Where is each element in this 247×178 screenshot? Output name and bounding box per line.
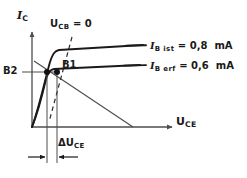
label-b1: B1: [62, 60, 77, 70]
legend-entry-ib-erf: IB erf = 0,6 mA: [150, 61, 234, 73]
legend-erf-unit: mA: [216, 60, 234, 71]
marker-b1: [54, 69, 60, 75]
delta-symbol: Δ: [58, 137, 66, 148]
legend-erf-equals: =: [176, 60, 191, 71]
label-b2: B2: [3, 66, 18, 76]
legend-ist-sub: B ist: [155, 45, 175, 53]
y-axis-label: IC: [17, 10, 28, 23]
curve-ib-ist: [32, 45, 143, 127]
delta-uce-label: ΔUCE: [58, 138, 85, 150]
x-axis-label-symbol: U: [176, 115, 185, 128]
x-axis-label: UCE: [176, 116, 197, 129]
legend-entry-ib-ist: IB ist = 0,8 mA: [150, 41, 233, 53]
characteristic-curve-svg: [0, 0, 247, 178]
ucb-zero-label: UCB = 0: [50, 19, 92, 31]
ucb-zero-sub: CB: [58, 23, 69, 31]
y-axis-label-sub: C: [22, 14, 28, 23]
delta-uce-main: U: [66, 137, 74, 148]
legend-ist-value: 0,8: [190, 40, 208, 51]
ucb-zero-equals: = 0: [69, 18, 91, 29]
legend-ist-unit: mA: [214, 40, 232, 51]
marker-b2: [44, 69, 50, 75]
legend-leader-erf: [124, 65, 146, 66]
legend-erf-sub: B erf: [155, 65, 176, 73]
figure-canvas: IC UCE UCB = 0 B1 B2 ΔUCE IB ist = 0,8 m…: [0, 0, 247, 178]
legend-ist-equals: =: [174, 40, 189, 51]
delta-uce-sub: CE: [74, 142, 85, 150]
ucb-zero-symbol: U: [50, 18, 58, 29]
x-axis-label-sub: CE: [185, 120, 197, 129]
legend-erf-value: 0,6: [191, 60, 209, 71]
